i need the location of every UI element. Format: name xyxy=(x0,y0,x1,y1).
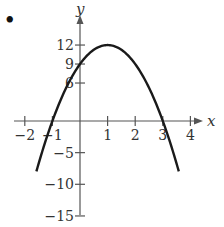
problem-bullet: • xyxy=(4,9,16,30)
parabola-chart: • −2−112341296−5−10−15 x y xyxy=(0,0,224,227)
tick-labels: −2−112341296−5−10−15 xyxy=(14,37,194,224)
y-tick-label: 9 xyxy=(65,56,74,72)
y-tick-label: −15 xyxy=(44,208,74,224)
x-axis-arrow-icon xyxy=(194,118,203,125)
x-tick-label: 2 xyxy=(131,127,140,143)
y-tick-label: 12 xyxy=(56,37,74,53)
x-tick-label: 1 xyxy=(103,127,112,143)
y-tick-label: −5 xyxy=(53,145,74,161)
x-axis-label: x xyxy=(207,112,216,130)
x-tick-label: 4 xyxy=(186,127,195,143)
y-tick-label: −10 xyxy=(44,176,74,192)
y-axis-label: y xyxy=(75,0,85,18)
x-tick-label: −2 xyxy=(14,127,35,143)
